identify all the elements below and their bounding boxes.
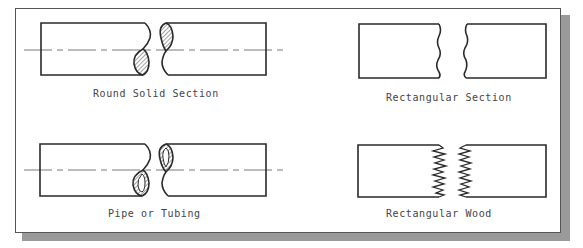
break-symbols-drawing bbox=[0, 0, 583, 248]
label-rectangular-wood: Rectangular Wood bbox=[386, 208, 492, 219]
label-rectangular-section: Rectangular Section bbox=[386, 92, 512, 103]
pipe-tubing-symbol bbox=[24, 144, 284, 196]
rectangular-section-symbol bbox=[359, 24, 546, 78]
rectangular-wood-symbol bbox=[358, 145, 546, 197]
label-round-solid-section: Round Solid Section bbox=[93, 88, 219, 99]
label-pipe-or-tubing: Pipe or Tubing bbox=[108, 208, 201, 219]
round-solid-section-symbol bbox=[24, 23, 284, 75]
